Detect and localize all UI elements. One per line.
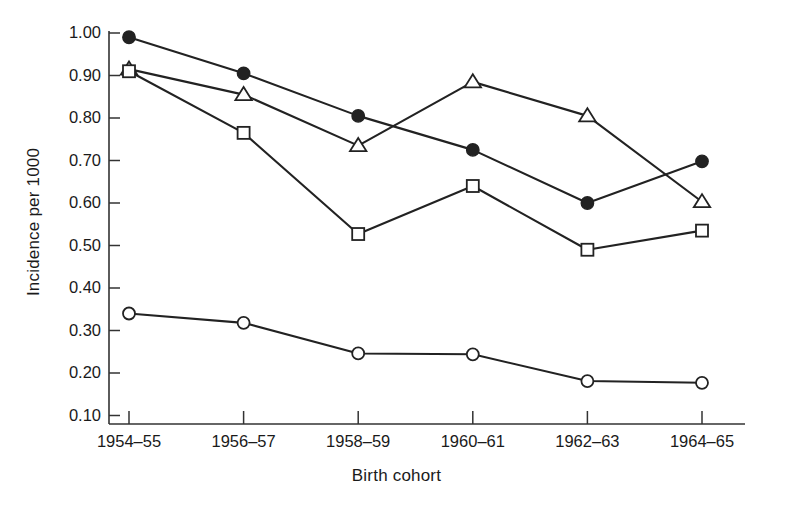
data-point-filled-circle bbox=[467, 144, 479, 156]
x-axis-title: Birth cohort bbox=[0, 466, 793, 486]
y-tick-label: 0.50 bbox=[39, 236, 101, 255]
y-tick-label: 0.30 bbox=[39, 321, 101, 340]
data-point-filled-circle bbox=[237, 67, 249, 79]
data-point-open-circle bbox=[581, 375, 593, 387]
data-point-open-circle bbox=[352, 347, 364, 359]
data-point-filled-circle bbox=[123, 31, 135, 43]
data-point-open-square bbox=[352, 228, 364, 240]
y-tick-label: 0.10 bbox=[39, 406, 101, 425]
y-tick-label: 0.90 bbox=[39, 66, 101, 85]
y-tick-label: 0.40 bbox=[39, 278, 101, 297]
data-point-open-circle bbox=[696, 377, 708, 389]
series-filled-circle bbox=[123, 31, 708, 209]
series-open-circle bbox=[123, 308, 708, 389]
data-point-filled-circle bbox=[581, 197, 593, 209]
series-line bbox=[129, 37, 702, 203]
y-tick-label: 0.80 bbox=[39, 108, 101, 127]
series-line bbox=[129, 69, 702, 202]
chart-axes bbox=[109, 31, 745, 424]
y-tick-label: 0.60 bbox=[39, 193, 101, 212]
y-tick-label: 0.70 bbox=[39, 151, 101, 170]
data-point-open-triangle bbox=[694, 194, 710, 207]
chart-series bbox=[121, 31, 710, 389]
series-open-square bbox=[123, 65, 708, 256]
data-point-open-square bbox=[238, 127, 250, 139]
series-line bbox=[129, 71, 702, 250]
y-tick-label: 0.20 bbox=[39, 363, 101, 382]
x-tick-label: 1960–61 bbox=[413, 432, 533, 451]
data-point-open-square bbox=[696, 225, 708, 237]
x-tick-label: 1954–55 bbox=[69, 432, 189, 451]
x-tick-label: 1958–59 bbox=[298, 432, 418, 451]
data-point-open-square bbox=[467, 180, 479, 192]
data-point-filled-circle bbox=[696, 155, 708, 167]
data-point-open-square bbox=[123, 65, 135, 77]
data-point-open-square bbox=[581, 244, 593, 256]
series-open-triangle bbox=[121, 62, 710, 208]
y-tick-label: 1.00 bbox=[39, 23, 101, 42]
series-line bbox=[129, 314, 702, 383]
chart-figure: Incidence per 1000 Birth cohort 1.000.90… bbox=[0, 0, 793, 508]
x-tick-label: 1964–65 bbox=[642, 432, 762, 451]
data-point-filled-circle bbox=[352, 110, 364, 122]
data-point-open-triangle bbox=[465, 74, 481, 87]
data-point-open-circle bbox=[123, 308, 135, 320]
x-tick-label: 1956–57 bbox=[184, 432, 304, 451]
data-point-open-triangle bbox=[350, 138, 366, 151]
data-point-open-circle bbox=[467, 348, 479, 360]
x-tick-label: 1962–63 bbox=[527, 432, 647, 451]
data-point-open-circle bbox=[238, 317, 250, 329]
y-axis-title: Incidence per 1000 bbox=[24, 102, 44, 342]
